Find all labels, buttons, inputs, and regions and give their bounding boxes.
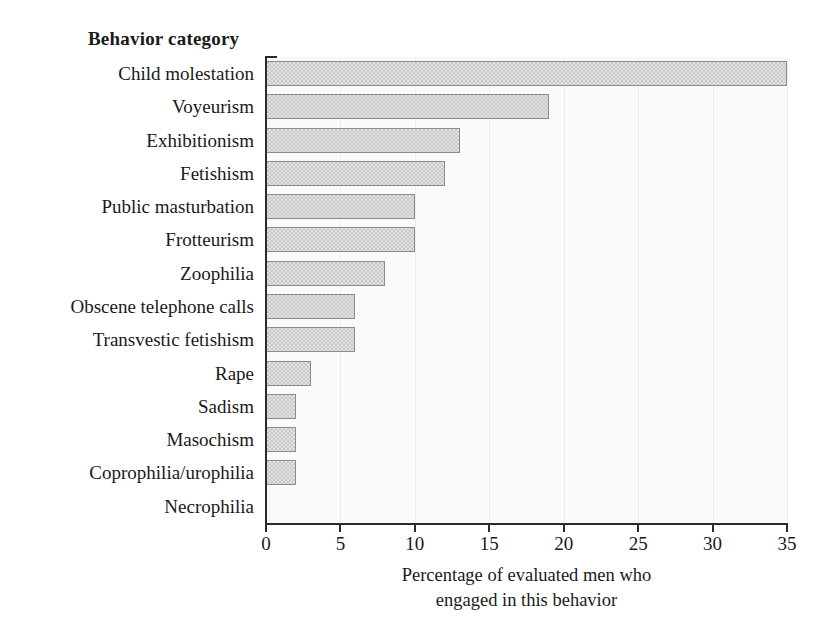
category-label: Frotteurism bbox=[165, 223, 254, 256]
bar[interactable] bbox=[266, 327, 355, 352]
bar[interactable] bbox=[266, 194, 415, 219]
bar[interactable] bbox=[266, 161, 445, 186]
gridline-35 bbox=[787, 57, 788, 523]
bar-row bbox=[266, 90, 787, 123]
x-tick-label: 0 bbox=[236, 533, 296, 555]
chart-title: Behavior category bbox=[88, 28, 239, 50]
bar-row bbox=[266, 257, 787, 290]
category-label: Zoophilia bbox=[180, 257, 254, 290]
bar-row bbox=[266, 357, 787, 390]
x-tick bbox=[786, 523, 788, 532]
category-label: Coprophilia/urophilia bbox=[89, 456, 254, 489]
bar-row bbox=[266, 290, 787, 323]
x-tick bbox=[488, 523, 490, 532]
x-tick bbox=[265, 523, 267, 532]
x-tick-label: 15 bbox=[459, 533, 519, 555]
bar-row bbox=[266, 223, 787, 256]
category-label: Voyeurism bbox=[172, 90, 254, 123]
bar[interactable] bbox=[266, 394, 296, 419]
bar[interactable] bbox=[266, 94, 549, 119]
bar-row bbox=[266, 124, 787, 157]
x-tick bbox=[563, 523, 565, 532]
category-label: Fetishism bbox=[180, 157, 254, 190]
category-label: Masochism bbox=[166, 423, 254, 456]
chart-figure: Behavior category Child molestationVoyeu… bbox=[0, 0, 835, 635]
x-axis-line bbox=[265, 523, 788, 525]
bar[interactable] bbox=[266, 460, 296, 485]
bar[interactable] bbox=[266, 294, 355, 319]
x-tick-label: 5 bbox=[310, 533, 370, 555]
category-label: Rape bbox=[215, 357, 254, 390]
category-label: Child molestation bbox=[118, 57, 254, 90]
category-label: Necrophilia bbox=[164, 490, 254, 523]
bar-row bbox=[266, 157, 787, 190]
category-label: Sadism bbox=[198, 390, 254, 423]
x-tick-label: 25 bbox=[608, 533, 668, 555]
plot-area bbox=[266, 57, 787, 523]
bar-row bbox=[266, 390, 787, 423]
category-label: Transvestic fetishism bbox=[93, 323, 254, 356]
category-label: Public masturbation bbox=[101, 190, 254, 223]
x-tick-label: 30 bbox=[683, 533, 743, 555]
bar[interactable] bbox=[266, 61, 787, 86]
y-axis-top-cap bbox=[265, 56, 277, 58]
bar-row bbox=[266, 423, 787, 456]
bar-row bbox=[266, 323, 787, 356]
bar-row bbox=[266, 190, 787, 223]
bar[interactable] bbox=[266, 227, 415, 252]
x-tick-label: 20 bbox=[534, 533, 594, 555]
bar[interactable] bbox=[266, 361, 311, 386]
x-tick-label: 10 bbox=[385, 533, 445, 555]
category-axis-labels: Child molestationVoyeurismExhibitionismF… bbox=[30, 57, 262, 523]
x-tick bbox=[637, 523, 639, 532]
x-tick bbox=[414, 523, 416, 532]
category-label: Exhibitionism bbox=[146, 124, 254, 157]
bar-row bbox=[266, 57, 787, 90]
bar[interactable] bbox=[266, 261, 385, 286]
x-tick bbox=[712, 523, 714, 532]
x-tick bbox=[339, 523, 341, 532]
x-axis-title: Percentage of evaluated men whoengaged i… bbox=[266, 563, 787, 613]
bar[interactable] bbox=[266, 128, 460, 153]
x-axis-title-line: engaged in this behavior bbox=[266, 588, 787, 613]
y-axis-line bbox=[265, 56, 267, 524]
x-axis-title-line: Percentage of evaluated men who bbox=[266, 563, 787, 588]
bar[interactable] bbox=[266, 427, 296, 452]
category-label: Obscene telephone calls bbox=[70, 290, 254, 323]
bar-row bbox=[266, 490, 787, 523]
x-tick-label: 35 bbox=[757, 533, 817, 555]
bar-row bbox=[266, 456, 787, 489]
